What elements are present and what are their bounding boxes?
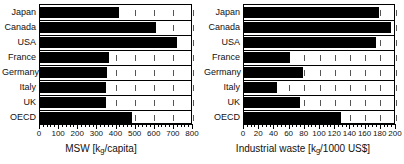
grid-tick — [320, 55, 321, 61]
grid-tick — [335, 55, 336, 61]
x-minor-tick — [177, 125, 178, 127]
grid-tick — [193, 85, 194, 91]
plot-area-industrial-waste — [243, 4, 395, 124]
x-minor-tick — [104, 125, 105, 127]
grid-tick — [380, 85, 381, 91]
bar-uk — [244, 97, 300, 108]
grid-tick — [320, 100, 321, 106]
bar-france — [40, 52, 109, 63]
x-minor-tick — [338, 125, 339, 127]
grid-tick — [173, 70, 174, 76]
grid-tick — [154, 100, 155, 106]
category-label-canada: Canada — [204, 22, 240, 32]
grid-tick — [193, 70, 194, 76]
x-minor-tick — [127, 125, 128, 127]
category-label-italy: Italy — [204, 82, 240, 92]
category-label-germany: Germany — [204, 67, 240, 77]
x-minor-tick — [361, 125, 362, 127]
x-minor-tick — [184, 125, 185, 127]
x-minor-tick — [308, 125, 309, 127]
x-minor-tick — [342, 125, 343, 127]
bar-italy — [244, 82, 277, 93]
grid-tick — [365, 85, 366, 91]
x-minor-tick — [262, 125, 263, 127]
x-minor-tick — [327, 125, 328, 127]
x-minor-tick — [353, 125, 354, 127]
x-minor-tick — [188, 125, 189, 127]
grid-tick — [193, 55, 194, 61]
grid-tick — [193, 100, 194, 106]
x-minor-tick — [119, 125, 120, 127]
grid-tick — [396, 25, 397, 31]
x-minor-tick — [391, 125, 392, 127]
grid-tick — [365, 100, 366, 106]
grid-tick — [396, 70, 397, 76]
x-minor-tick — [311, 125, 312, 127]
x-minor-tick — [54, 125, 55, 127]
grid-tick — [350, 70, 351, 76]
x-minor-tick — [251, 125, 252, 127]
grid-tick — [365, 115, 366, 121]
grid-tick — [304, 85, 305, 91]
category-label-usa: USA — [2, 37, 36, 47]
x-minor-tick — [315, 125, 316, 127]
x-minor-tick — [277, 125, 278, 127]
grid-tick — [173, 10, 174, 16]
grid-tick — [396, 55, 397, 61]
grid-tick — [116, 85, 117, 91]
grid-tick — [396, 10, 397, 16]
grid-tick — [154, 115, 155, 121]
bar-oecd — [244, 112, 341, 123]
grid-tick — [173, 25, 174, 31]
bar-germany — [244, 67, 303, 78]
grid-tick — [135, 70, 136, 76]
grid-tick — [365, 55, 366, 61]
x-minor-tick — [181, 125, 182, 127]
grid-tick — [304, 100, 305, 106]
grid-tick — [289, 85, 290, 91]
bar-japan — [40, 7, 119, 18]
category-label-oecd: OECD — [2, 112, 36, 122]
grid-tick — [335, 100, 336, 106]
grid-tick — [380, 115, 381, 121]
bar-germany — [40, 67, 107, 78]
bar-canada — [40, 22, 156, 33]
x-minor-tick — [368, 125, 369, 127]
category-label-uk: UK — [2, 97, 36, 107]
grid-tick — [396, 115, 397, 121]
grid-tick — [173, 55, 174, 61]
grid-tick — [135, 100, 136, 106]
grid-tick — [116, 100, 117, 106]
grid-tick — [154, 10, 155, 16]
category-label-usa: USA — [204, 37, 240, 47]
bar-oecd — [40, 112, 132, 123]
grid-tick — [193, 40, 194, 46]
x-minor-tick — [165, 125, 166, 127]
x-minor-tick — [387, 125, 388, 127]
x-minor-tick — [161, 125, 162, 127]
category-labels-industrial-waste: JapanCanadaUSAFranceGermanyItalyUKOECD — [202, 4, 240, 124]
grid-tick — [116, 55, 117, 61]
grid-tick — [380, 70, 381, 76]
bar-italy — [40, 82, 106, 93]
x-minor-tick — [70, 125, 71, 127]
category-label-france: France — [2, 52, 36, 62]
x-minor-tick — [108, 125, 109, 127]
x-minor-tick — [89, 125, 90, 127]
grid-tick — [380, 40, 381, 46]
x-minor-tick — [150, 125, 151, 127]
grid-tick — [350, 100, 351, 106]
x-minor-tick — [50, 125, 51, 127]
grid-tick — [365, 70, 366, 76]
grid-tick — [380, 100, 381, 106]
grid-tick — [304, 55, 305, 61]
plot-area-msw — [39, 4, 192, 124]
x-minor-tick — [384, 125, 385, 127]
category-label-italy: Italy — [2, 82, 36, 92]
category-labels-msw: JapanCanadaUSAFranceGermanyItalyUKOECD — [0, 4, 36, 124]
grid-tick — [380, 55, 381, 61]
grid-tick — [193, 115, 194, 121]
grid-tick — [135, 55, 136, 61]
grid-tick — [154, 55, 155, 61]
bar-uk — [40, 97, 106, 108]
